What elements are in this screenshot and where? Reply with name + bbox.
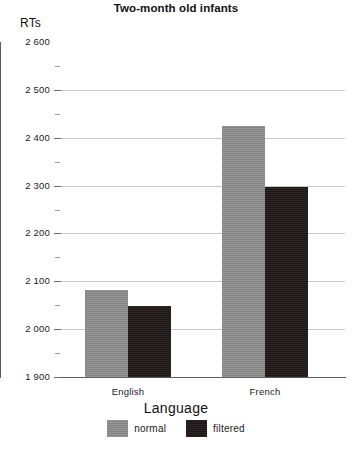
bar-english-filtered (128, 306, 171, 377)
legend-label-normal: normal (134, 423, 166, 434)
legend-item-normal: normal (107, 420, 166, 437)
y-tick-label: 2 400 (4, 132, 50, 143)
x-axis-title: Language (0, 400, 352, 416)
bar-french-normal (222, 126, 265, 377)
y-tick-label: 2 200 (4, 227, 50, 238)
y-tick-label: 2 100 (4, 275, 50, 286)
x-category-label-english: English (73, 386, 183, 397)
y-axis-line (0, 42, 1, 378)
chart-title: Two-month old infants (0, 2, 352, 14)
bar-english-normal (85, 290, 128, 377)
y-axis-title: RTs (20, 16, 41, 30)
y-tick-label: 2 300 (4, 180, 50, 191)
y-tick-label: 2 500 (4, 84, 50, 95)
legend-label-filtered: filtered (213, 423, 245, 434)
y-tick-label: 1 900 (4, 371, 50, 382)
legend-item-filtered: filtered (186, 420, 245, 437)
plot-area (60, 42, 345, 377)
bar-french-filtered (265, 187, 308, 377)
x-axis-line (60, 377, 346, 378)
bar-chart: Two-month old infants RTs 2 6002 5002 40… (0, 0, 352, 451)
y-tick-label: 2 000 (4, 323, 50, 334)
legend-swatch-filtered (186, 420, 207, 437)
y-tick-label: 2 600 (4, 36, 50, 47)
legend-swatch-normal (107, 420, 128, 437)
x-category-label-french: French (210, 386, 320, 397)
chart-legend: normalfiltered (0, 420, 352, 437)
